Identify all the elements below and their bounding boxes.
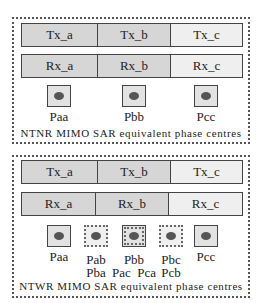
dot-icon	[91, 232, 101, 240]
dot-icon	[201, 92, 211, 100]
rx-b-cell: Rx_b	[95, 193, 168, 215]
label-paa: Paa	[39, 250, 79, 263]
phase-centre-pab	[84, 225, 108, 247]
label-pbb: Pbb	[114, 110, 154, 123]
label-pcb: Pcb	[151, 266, 191, 279]
rx-b-cell: Rx_b	[97, 55, 170, 77]
dot-icon	[201, 232, 211, 240]
rx-a-cell: Rx_a	[22, 193, 95, 215]
tx-a-cell: Tx_a	[22, 24, 97, 46]
tx-a-cell: Tx_a	[22, 161, 97, 183]
phase-centre-pbc	[159, 225, 183, 247]
dot-icon	[54, 92, 64, 100]
tx-c-cell: Tx_c	[170, 24, 242, 46]
rx-row: Rx_a Rx_b Rx_c	[21, 54, 243, 78]
ntnr-panel: Tx_a Tx_b Tx_c Rx_a Rx_b Rx_c Paa Pbb Pc…	[12, 17, 250, 144]
tx-row: Tx_a Tx_b Tx_c	[21, 23, 243, 47]
label-pcc: Pcc	[186, 110, 226, 123]
tx-row: Tx_a Tx_b Tx_c	[21, 160, 243, 184]
rx-c-cell: Rx_c	[170, 55, 242, 77]
tx-b-cell: Tx_b	[97, 24, 170, 46]
phase-centre-pcc	[194, 85, 218, 107]
ntwr-caption: NTWR MIMO SAR equivalent phase centres	[14, 280, 248, 292]
label-pcc: Pcc	[186, 250, 226, 263]
phase-centre-paa	[47, 225, 71, 247]
phase-centre-pbb	[122, 85, 146, 107]
phase-centre-pbb	[122, 225, 146, 247]
rx-c-cell: Rx_c	[168, 193, 242, 215]
dot-icon	[166, 232, 176, 240]
dot-icon	[129, 232, 139, 240]
phase-centre-paa	[47, 85, 71, 107]
ntnr-caption: NTNR MIMO SAR equivalent phase centres	[14, 127, 248, 139]
rx-row: Rx_a Rx_b Rx_c	[21, 192, 243, 216]
tx-b-cell: Tx_b	[97, 161, 170, 183]
tx-c-cell: Tx_c	[170, 161, 242, 183]
dot-icon	[54, 232, 64, 240]
dot-icon	[129, 92, 139, 100]
phase-centre-pcc	[194, 225, 218, 247]
label-paa: Paa	[39, 110, 79, 123]
rx-a-cell: Rx_a	[22, 55, 97, 77]
ntwr-panel: Tx_a Tx_b Tx_c Rx_a Rx_b Rx_c Paa Pab Pb…	[12, 155, 250, 298]
